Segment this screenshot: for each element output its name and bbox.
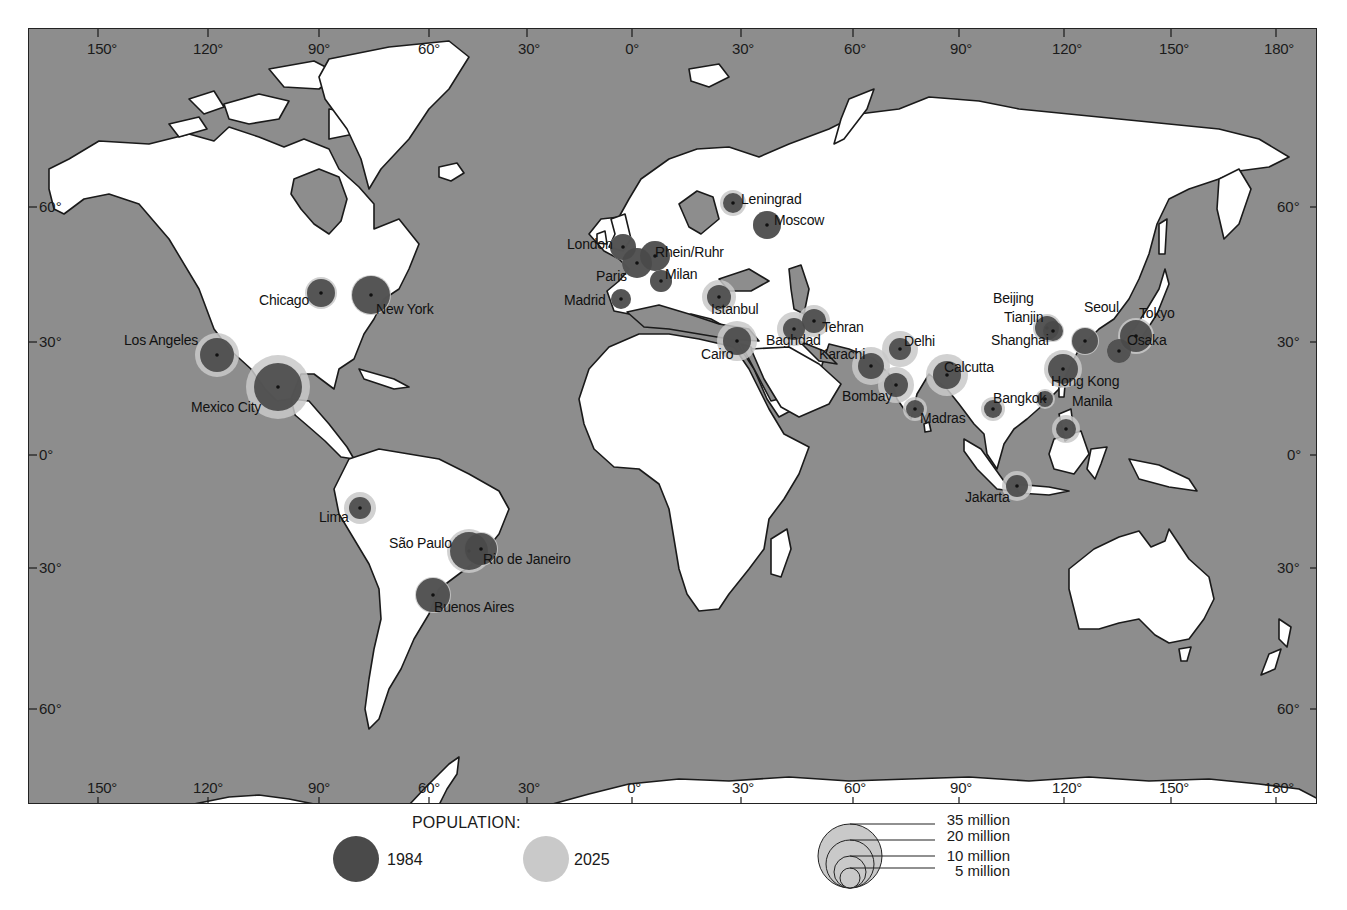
city-label: Baghdad xyxy=(766,332,821,348)
city-label: Delhi xyxy=(904,333,935,349)
city-dot xyxy=(319,291,323,295)
city-label: São Paulo xyxy=(389,535,452,551)
lon-label-bottom: 30° xyxy=(732,779,754,796)
city-label: Los Angeles xyxy=(124,332,198,348)
city-label: Madras xyxy=(920,410,965,426)
lon-label-top: 90° xyxy=(950,40,972,57)
tasmania-landmass xyxy=(1179,647,1191,661)
city-label: Manila xyxy=(1072,393,1112,409)
lat-label-left: 30° xyxy=(39,559,62,576)
lon-label-bottom: 90° xyxy=(950,779,972,796)
city-dot xyxy=(913,407,917,411)
city-dot xyxy=(659,279,663,283)
lon-label-bottom: 90° xyxy=(308,779,330,796)
map-canvas xyxy=(29,29,1317,804)
city-dot xyxy=(869,364,873,368)
city-label: Tehran xyxy=(822,319,864,335)
lon-label-bottom: 60° xyxy=(418,779,440,796)
lat-label-left: 30° xyxy=(39,333,62,350)
lon-label-top: 120° xyxy=(193,40,223,57)
city-label: Tokyo xyxy=(1139,305,1175,321)
lon-label-bottom: 120° xyxy=(193,779,223,796)
legend-label-1984: 1984 xyxy=(387,851,423,869)
lat-label-left: 60° xyxy=(39,700,62,717)
city-label: Leningrad xyxy=(741,191,801,207)
city-label: Paris xyxy=(596,268,627,284)
city-dot xyxy=(358,506,362,510)
city-dot xyxy=(894,383,898,387)
city-dot xyxy=(1051,329,1055,333)
lat-label-left: 60° xyxy=(39,198,62,215)
lon-label-top: 30° xyxy=(732,40,754,57)
city-label: Shanghai xyxy=(991,332,1049,348)
city-dot xyxy=(991,407,995,411)
city-dot xyxy=(1015,484,1019,488)
lon-label-top: 30° xyxy=(518,40,540,57)
city-label: Chicago xyxy=(259,292,309,308)
city-label: Rhein/Ruhr xyxy=(655,244,724,260)
iceland-landmass xyxy=(439,163,464,181)
city-dot xyxy=(276,385,280,389)
lon-label-bottom: 150° xyxy=(1159,779,1189,796)
lon-label-top: 90° xyxy=(308,40,330,57)
scale-label-20m: 20 million xyxy=(920,828,1010,844)
city-label: Madrid xyxy=(564,292,606,308)
lon-label-bottom: 60° xyxy=(844,779,866,796)
city-dot xyxy=(1061,367,1065,371)
lon-label-top: 150° xyxy=(87,40,117,57)
city-dot xyxy=(1083,339,1087,343)
city-dot xyxy=(1064,427,1068,431)
lon-label-bottom: 150° xyxy=(87,779,117,796)
lat-label-right: 0° xyxy=(1287,446,1301,463)
city-label: Bombay xyxy=(842,388,892,404)
city-dot xyxy=(765,223,769,227)
scale-label-35m: 35 million xyxy=(920,812,1010,828)
city-label: Mexico City xyxy=(191,399,261,415)
city-label: London xyxy=(567,236,613,252)
legend-title: POPULATION: xyxy=(412,814,521,832)
city-dot xyxy=(812,319,816,323)
city-label: Moscow xyxy=(774,212,824,228)
city-label: New York xyxy=(376,301,434,317)
city-label: Milan xyxy=(665,266,697,282)
lon-label-bottom: 180° xyxy=(1264,779,1294,796)
lat-label-right: 30° xyxy=(1277,559,1300,576)
city-dot xyxy=(717,295,721,299)
city-label: Rio de Janeiro xyxy=(483,551,570,567)
city-label: Jakarta xyxy=(965,489,1010,505)
city-dot xyxy=(431,593,435,597)
city-label: Osaka xyxy=(1127,332,1166,348)
city-label: Calcutta xyxy=(944,359,994,375)
city-label: Beijing xyxy=(993,290,1034,306)
city-dot xyxy=(621,245,625,249)
city-dot xyxy=(369,293,373,297)
lon-label-top: 60° xyxy=(844,40,866,57)
madagascar-landmass xyxy=(771,529,791,577)
lon-label-bottom: 120° xyxy=(1052,779,1082,796)
city-dot xyxy=(635,261,639,265)
lon-label-bottom: 30° xyxy=(518,779,540,796)
lat-label-right: 60° xyxy=(1277,700,1300,717)
kamchatka-landmass xyxy=(1217,169,1251,239)
lat-label-right: 30° xyxy=(1277,333,1300,350)
legend: POPULATION: 1984 2025 35 million 20 mill… xyxy=(0,806,1347,910)
city-dot xyxy=(1117,349,1121,353)
legend-swatch-1984 xyxy=(333,836,379,882)
lon-label-top: 60° xyxy=(418,40,440,57)
lat-label-left: 0° xyxy=(39,446,53,463)
city-label: Karachi xyxy=(819,346,865,362)
antarctica-landmass xyxy=(549,777,1317,804)
lon-label-top: 150° xyxy=(1159,40,1189,57)
lon-label-top: 0° xyxy=(625,40,639,57)
lon-label-top: 180° xyxy=(1264,40,1294,57)
scale-label-5m: 5 million xyxy=(920,863,1010,879)
world-map: 150° 120° 90° 60° 30° 0° 30° 60° 90° 120… xyxy=(28,28,1317,804)
city-label: Cairo xyxy=(701,346,733,362)
lon-label-bottom: 0° xyxy=(627,779,641,796)
city-dot xyxy=(731,201,735,205)
legend-swatch-2025 xyxy=(523,836,569,882)
city-dot xyxy=(898,347,902,351)
new-guinea-landmass xyxy=(1129,459,1197,491)
landmasses xyxy=(49,41,1317,804)
city-label: Bangkok xyxy=(993,390,1046,406)
